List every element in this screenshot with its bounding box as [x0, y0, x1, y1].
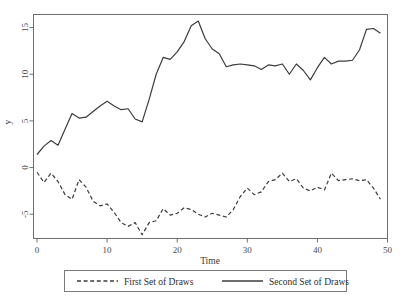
- y-tick-label: 10: [20, 69, 30, 79]
- y-tick-label: 0: [20, 165, 30, 170]
- x-tick-label: 20: [173, 245, 183, 255]
- x-tick-label: 10: [103, 245, 113, 255]
- plot-frame: [34, 15, 388, 239]
- y-tick-label: -5: [20, 210, 30, 218]
- legend-label-second-set[interactable]: Second Set of Draws: [269, 277, 349, 287]
- y-axis-title: y: [3, 119, 13, 124]
- legend-label-first-set[interactable]: First Set of Draws: [124, 277, 194, 287]
- chart-container: -5051015 01020304050 y Time First Set of…: [0, 0, 410, 296]
- x-axis-title: Time: [200, 256, 220, 266]
- x-tick-label: 50: [383, 245, 393, 255]
- x-tick-label: 30: [243, 245, 253, 255]
- y-tick-label: 15: [20, 23, 30, 32]
- y-tick-label: 5: [20, 118, 30, 123]
- x-tick-label: 0: [35, 245, 40, 255]
- line-chart: -5051015 01020304050 y Time First Set of…: [0, 0, 410, 296]
- x-tick-label: 40: [313, 245, 323, 255]
- chart-legend[interactable]: First Set of Draws Second Set of Draws: [65, 271, 350, 292]
